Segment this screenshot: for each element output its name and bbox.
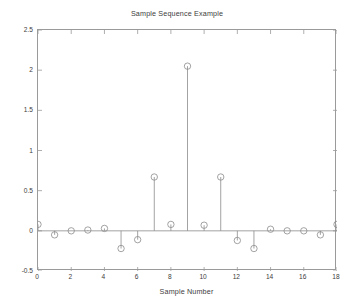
y-tick-label: 2.5 — [0, 26, 33, 33]
y-tick-label: 1 — [0, 146, 33, 153]
y-tick-label: 1.5 — [0, 106, 33, 113]
stem-marker — [334, 221, 337, 227]
x-tick-label: 6 — [135, 273, 139, 280]
x-tick-label: 4 — [102, 273, 106, 280]
y-tick-label: 2 — [0, 66, 33, 73]
chart-title: Sample Sequence Example — [0, 9, 354, 18]
x-tick-label: 16 — [299, 273, 306, 280]
x-axis-label: Sample Number — [37, 287, 336, 296]
y-tick-label: 0 — [0, 226, 33, 233]
x-tick-label: 14 — [266, 273, 273, 280]
stem-marker — [38, 221, 41, 227]
x-tick-label: 8 — [168, 273, 172, 280]
x-tick-label: 0 — [35, 273, 39, 280]
x-tick-label: 12 — [233, 273, 240, 280]
y-tick-label: 0.5 — [0, 186, 33, 193]
stem-plot-svg — [38, 30, 337, 271]
plot-area — [37, 29, 336, 270]
x-tick-label: 2 — [68, 273, 72, 280]
stem-lines-group — [38, 66, 337, 248]
x-tick-label: 18 — [332, 273, 339, 280]
y-tick-label: -0.5 — [0, 267, 33, 274]
x-tick-label: 10 — [199, 273, 206, 280]
figure-canvas: Sample Sequence Example -0.500.511.522.5… — [0, 0, 354, 308]
